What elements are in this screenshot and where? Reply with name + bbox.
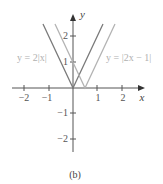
equation-label-left: y = 2|x| [17, 52, 47, 63]
x-tick-label: 2 [121, 92, 126, 103]
y-tick-label: −1 [57, 107, 68, 118]
y-axis-label: y [79, 8, 85, 20]
y-tick-label: 1 [63, 56, 68, 67]
x-tick-label: −1 [42, 92, 53, 103]
y-tick-label: −2 [57, 133, 68, 144]
chart-svg: −2 −1 1 2 x 2 1 −1 −2 y y = 2|x| y = |2x… [0, 0, 163, 184]
figure-caption: (b) [69, 169, 81, 181]
y-axis-arrow-icon [70, 14, 76, 21]
x-tick-label: 1 [96, 92, 101, 103]
x-tick-label: −2 [19, 92, 30, 103]
equation-label-right: y = |2x − 1| [106, 52, 151, 63]
y-tick-label: 2 [63, 30, 68, 41]
x-axis-label: x [139, 91, 145, 103]
